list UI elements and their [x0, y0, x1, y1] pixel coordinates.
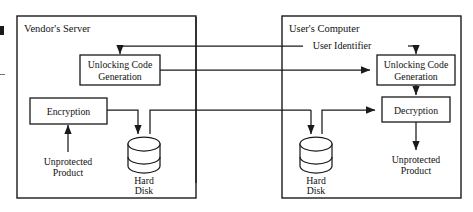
hard-disk-left-label-line2: Disk — [135, 185, 154, 196]
hard-disk-right-top — [300, 137, 332, 151]
label-unprotected-product-out-line1: Unprotected — [392, 154, 441, 165]
box-ucg-right-line1: Unlocking Code — [384, 59, 449, 70]
label-unprotected-product-in-line1: Unprotected — [44, 156, 93, 167]
diagram-svg: Unlocking Code Generation Encryption Unl… — [0, 0, 473, 212]
box-ucg-left-line2: Generation — [98, 71, 142, 82]
panel-user-title: User's Computer — [289, 23, 360, 34]
store-hard-disk-left[interactable] — [128, 137, 160, 173]
box-decryption-label: Decryption — [394, 105, 438, 116]
box-ucg-right-line2: Generation — [394, 71, 438, 82]
connector-disk-left-to-bus — [150, 110, 311, 134]
label-unprotected-product-in-line2: Product — [53, 167, 84, 178]
hard-disk-right-label-line2: Disk — [307, 185, 326, 196]
store-hard-disk-right[interactable] — [300, 137, 332, 173]
box-ucg-left-line1: Unlocking Code — [88, 59, 153, 70]
label-user-identifier: User Identifier — [313, 40, 372, 51]
label-unprotected-product-out-line2: Product — [401, 165, 432, 176]
box-encryption-label: Encryption — [47, 106, 91, 117]
hard-disk-left-top — [128, 137, 160, 151]
panel-vendor-title: Vendor's Server — [24, 23, 91, 34]
connector-encryption-to-disk — [107, 110, 138, 134]
diagram-canvas: Unlocking Code Generation Encryption Unl… — [0, 0, 473, 212]
connector-disk-right-to-decryption — [322, 110, 375, 134]
